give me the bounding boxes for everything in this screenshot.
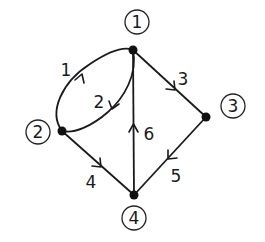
node-label-2: 2 (33, 122, 44, 142)
node-3: 3 (202, 94, 246, 122)
edge-label-2: 2 (94, 92, 105, 112)
node-1: 1 (125, 10, 149, 55)
node-label-4: 4 (129, 208, 140, 228)
edge-4: 4 (62, 131, 134, 195)
node-4: 4 (122, 191, 146, 231)
edge-label-3: 3 (178, 69, 189, 89)
edge-6: 6 (129, 50, 154, 195)
node-dot (58, 127, 67, 136)
node-dot (129, 46, 138, 55)
node-2: 2 (26, 120, 67, 144)
node-dot (130, 191, 139, 200)
edge-label-1: 1 (61, 60, 72, 80)
edge-2: 2 (62, 50, 134, 132)
edge-1: 1 (57, 49, 133, 131)
node-label-3: 3 (228, 96, 239, 116)
node-dot (202, 113, 211, 122)
edge-label-5: 5 (171, 166, 182, 186)
edge-label-4: 4 (86, 172, 97, 192)
node-label-1: 1 (132, 12, 143, 32)
edge-label-6: 6 (144, 124, 155, 144)
directed-graph-diagram: 1 2 3 4 5 6 1 2 (0, 0, 265, 242)
edge-3: 3 (133, 50, 206, 117)
